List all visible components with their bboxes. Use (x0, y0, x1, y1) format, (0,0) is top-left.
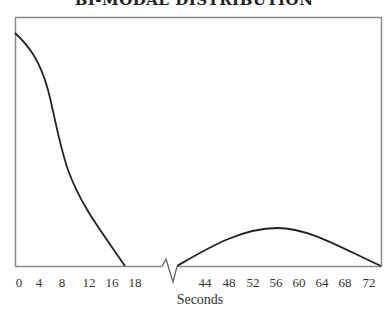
x-axis-label: Seconds (177, 292, 224, 307)
svg-text:52: 52 (247, 275, 260, 290)
svg-text:44: 44 (199, 275, 213, 290)
svg-text:12: 12 (83, 275, 96, 290)
svg-text:68: 68 (339, 275, 352, 290)
svg-text:64: 64 (316, 275, 330, 290)
svg-text:4: 4 (36, 275, 43, 290)
plot-frame (16, 18, 382, 267)
svg-text:56: 56 (270, 275, 284, 290)
svg-text:48: 48 (223, 275, 236, 290)
axis-break-icon (162, 259, 177, 282)
svg-text:60: 60 (293, 275, 306, 290)
series-first-mode (15, 33, 125, 266)
chart: 0 4 8 12 16 18 44 48 52 56 60 64 68 72 S… (0, 0, 388, 312)
svg-text:72: 72 (363, 275, 376, 290)
x-tick-labels: 0 4 8 12 16 18 44 48 52 56 60 64 68 72 (16, 275, 376, 290)
svg-text:0: 0 (16, 275, 23, 290)
svg-text:18: 18 (129, 275, 142, 290)
series-second-mode (177, 228, 381, 266)
svg-text:8: 8 (59, 275, 66, 290)
svg-text:16: 16 (106, 275, 120, 290)
